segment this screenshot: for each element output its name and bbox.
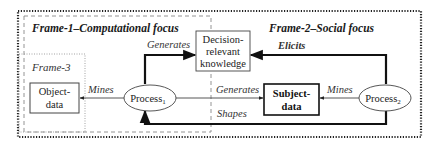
edge-label-elicits: Elicits	[277, 40, 305, 51]
node-process-1: Process1	[124, 85, 176, 111]
edge-label-mines-left: Mines	[87, 84, 114, 95]
edge-p2-elicits-decision	[251, 55, 386, 84]
node-subject-data: Subject- data	[264, 84, 319, 115]
frame2-title: Frame-2–Social focus	[268, 22, 375, 35]
node-process-2: Process2	[359, 85, 411, 111]
frame1-title: Frame-1–Computational focus	[31, 22, 179, 35]
edge-label-generates-mid: Generates	[216, 84, 259, 95]
conceptual-frames-diagram: Frame-1–Computational focus Frame-2–Soci…	[0, 0, 439, 147]
svg-text:Subject-: Subject-	[273, 88, 311, 99]
svg-text:knowledge: knowledge	[200, 58, 246, 69]
edge-label-shapes: Shapes	[217, 108, 247, 119]
svg-text:data: data	[46, 99, 64, 110]
edge-p1-generates-decision	[145, 55, 195, 84]
node-decision-relevant-knowledge: Decision- relevant knowledge	[196, 31, 250, 71]
svg-text:Object-: Object-	[39, 86, 71, 97]
node-object-data: Object- data	[30, 83, 79, 113]
frame3-title: Frame-3	[31, 61, 71, 73]
edge-label-generates-top: Generates	[147, 39, 190, 50]
svg-text:data: data	[282, 101, 303, 112]
edge-label-mines-right: Mines	[326, 84, 353, 95]
svg-text:Decision-: Decision-	[203, 34, 244, 45]
svg-text:relevant: relevant	[206, 46, 240, 57]
